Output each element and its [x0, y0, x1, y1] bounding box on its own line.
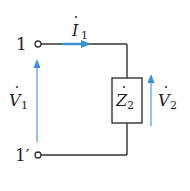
svg-text:2: 2 — [170, 99, 177, 112]
output-voltage-arrow-icon — [148, 74, 155, 126]
svg-text:1: 1 — [81, 29, 88, 42]
terminal-1-icon — [35, 41, 41, 47]
terminal-1-label: 1 — [16, 34, 27, 54]
circuit-diagram: 1 1′ · I 1 · V 1 · Z 2 · V 2 — [0, 0, 190, 191]
terminal-1-prime-label: 1′ — [15, 145, 30, 165]
svg-text:2: 2 — [127, 99, 134, 112]
input-voltage-arrow-icon — [34, 59, 41, 142]
output-voltage-label: · V 2 — [158, 79, 177, 112]
svg-text:I: I — [71, 21, 79, 40]
current-label: · I 1 — [71, 9, 88, 42]
input-voltage-label: · V 1 — [9, 79, 28, 112]
svg-text:1: 1 — [21, 99, 28, 112]
terminal-1-prime-icon — [35, 152, 41, 158]
